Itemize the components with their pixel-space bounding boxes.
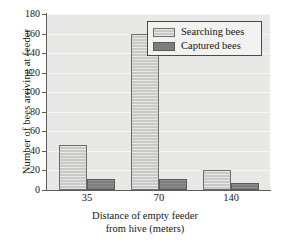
y-axis-tick [42,73,47,74]
bar-140-captured-bees [231,183,259,190]
bar-70-captured-bees [159,179,187,190]
y-axis-tick-label: 80 [0,107,40,117]
bar-chart-figure: Number of bees arriving at feeder 020406… [0,0,282,243]
legend-item-captured-bees: Captured bees [153,39,256,53]
legend-item-searching-bees: Searching bees [153,25,256,39]
y-axis-tick-label: 0 [0,185,40,195]
y-axis-tick-label: 20 [0,165,40,175]
x-axis-tick-label: 70 [139,193,179,204]
gridline [47,14,270,15]
y-axis-tick-label: 100 [0,87,40,97]
y-axis-tick [42,14,47,15]
bar-140-searching-bees [203,170,231,190]
x-axis-title-line-1: Distance of empty feeder [20,209,270,222]
y-axis-tick-label: 140 [0,48,40,58]
x-axis-tick-label: 35 [67,193,107,204]
y-axis-tick [42,151,47,152]
legend-swatch-captured-bees [153,42,175,51]
x-axis-title-line-2: from hive (meters) [20,222,270,235]
legend-swatch-searching-bees [153,28,175,37]
y-axis-tick [42,92,47,93]
x-axis-tick-label: 140 [211,193,251,204]
y-axis-line [46,13,47,191]
y-axis-tick [42,53,47,54]
y-axis-tick [42,131,47,132]
y-axis-tick-label: 40 [0,146,40,156]
x-axis-title: Distance of empty feeder from hive (mete… [20,209,270,235]
y-axis-tick-label: 60 [0,126,40,136]
bar-35-captured-bees [87,179,115,190]
y-axis-tick-label: 120 [0,68,40,78]
bar-35-searching-bees [59,145,87,190]
y-axis-tick [42,34,47,35]
legend-label-captured-bees: Captured bees [181,41,241,52]
y-axis-tick [42,170,47,171]
x-axis-line [46,190,271,191]
y-axis-tick [42,112,47,113]
legend-label-searching-bees: Searching bees [181,27,244,38]
legend: Searching bees Captured bees [147,21,262,56]
bar-70-searching-bees [131,34,159,190]
y-axis-tick-label: 180 [0,9,40,19]
y-axis-tick-label: 160 [0,29,40,39]
y-axis-tick [42,190,47,191]
